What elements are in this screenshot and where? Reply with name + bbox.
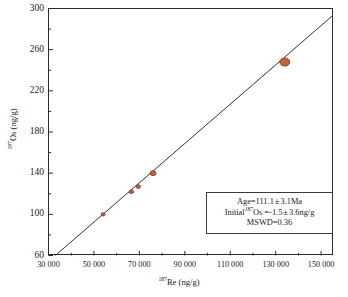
data-point xyxy=(136,185,141,189)
y-tick-label: 260 xyxy=(30,45,44,55)
initial-superscript: 187 xyxy=(245,206,253,212)
data-point xyxy=(280,58,290,66)
y-tick-label: 100 xyxy=(30,210,44,220)
y-tick-label: 220 xyxy=(30,86,44,96)
mswd-line: MSWD=0.36 xyxy=(209,218,330,229)
x-tick-label: 70 000 xyxy=(128,261,151,269)
x-axis-title-text: Re (ng/g) xyxy=(167,277,200,287)
x-axis-tick-labels: 30 00050 00070 00090 000110 000130 00015… xyxy=(0,261,348,275)
age-line: Age=111.1±3.1Ma xyxy=(209,197,330,208)
statistics-annotation-box: Age=111.1±3.1Ma Initial187Os =-1.5±3.6ng… xyxy=(206,192,333,234)
isochron-chart-figure: 60100140180220260300 30 00050 00070 0009… xyxy=(0,0,348,297)
age-error: 3.1Ma xyxy=(280,197,302,206)
x-tick-label: 150 000 xyxy=(308,261,335,269)
y-tick-label: 60 xyxy=(35,251,45,261)
initial-os-line: Initial187Os =-1.5±3.6ng/g xyxy=(209,208,330,219)
initial-error: 3.6ng/g xyxy=(289,208,314,217)
y-axis-title-superscript: 187 xyxy=(7,141,13,149)
y-tick-label: 180 xyxy=(30,127,44,137)
data-point xyxy=(150,171,156,176)
x-tick-label: 90 000 xyxy=(174,261,197,269)
x-tick-label: 130 000 xyxy=(262,261,289,269)
initial-plusminus: ± xyxy=(282,208,289,217)
x-axis-title: 187Re (ng/g) xyxy=(0,277,348,287)
x-axis-major-ticks xyxy=(49,251,322,256)
y-axis-title-text: Os (ng/g) xyxy=(8,108,18,141)
y-axis-major-ticks xyxy=(49,9,54,256)
initial-isotope: Os = xyxy=(253,208,269,217)
x-tick-label: 30 000 xyxy=(37,261,60,269)
age-value: 111.1 xyxy=(256,197,274,206)
y-tick-label: 300 xyxy=(30,4,44,14)
plot-canvas xyxy=(0,0,348,297)
x-tick-label: 110 000 xyxy=(217,261,243,269)
y-tick-label: 140 xyxy=(30,168,44,178)
data-point xyxy=(129,190,134,194)
data-point xyxy=(101,213,105,216)
y-axis-title: 187Os (ng/g) xyxy=(8,74,18,184)
initial-label: Initial xyxy=(225,208,245,217)
age-label: Age= xyxy=(237,197,256,206)
x-axis-title-superscript: 187 xyxy=(158,276,166,282)
x-tick-label: 50 000 xyxy=(83,261,106,269)
initial-value: -1.5 xyxy=(269,208,282,217)
